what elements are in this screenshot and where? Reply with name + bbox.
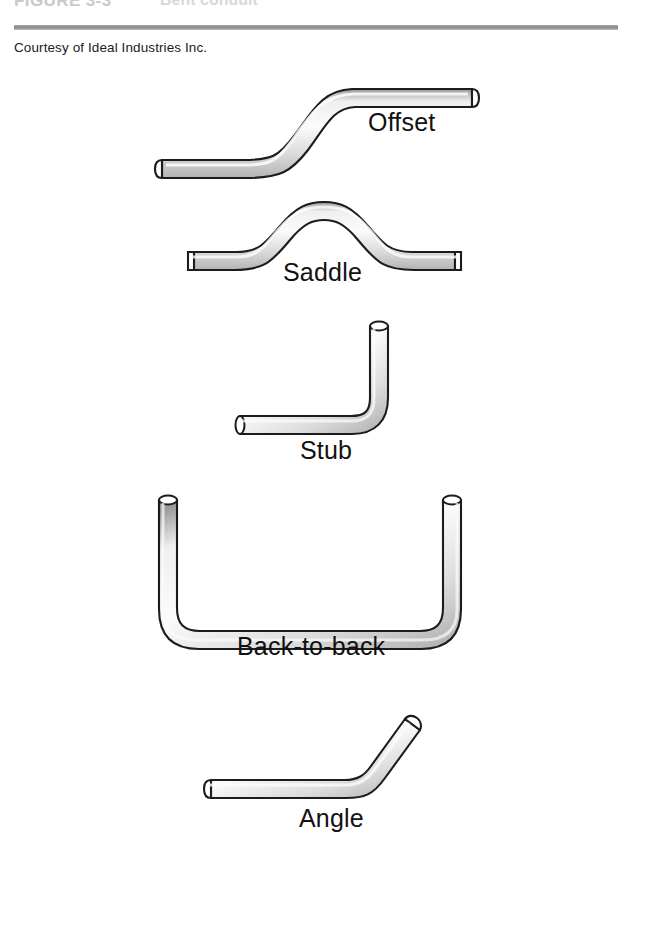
bend-label-back-to-back: Back-to-back [237, 632, 385, 661]
bend-label-offset: Offset [368, 108, 435, 137]
bend-figure-stub: Stub [0, 314, 646, 472]
figure-header: FIGURE 3-3 Bent conduit [0, 0, 646, 10]
figure-subject: Bent conduit [160, 0, 258, 9]
bend-figure-back-to-back: Back-to-back [0, 480, 646, 676]
bend-illustration-stack: Offset Saddle Stub [0, 62, 646, 938]
credit-line: Courtesy of Ideal Industries Inc. [14, 40, 207, 55]
offset-conduit-drawing [0, 62, 646, 190]
header-divider-rule [14, 25, 618, 30]
bend-figure-angle: Angle [0, 692, 646, 842]
bend-label-angle: Angle [299, 804, 364, 833]
figure-number: FIGURE 3-3 [14, 0, 112, 10]
bend-label-saddle: Saddle [283, 258, 362, 287]
bend-figure-saddle: Saddle [0, 198, 646, 306]
bend-figure-offset: Offset [0, 62, 646, 190]
saddle-conduit-drawing [0, 198, 646, 306]
bend-label-stub: Stub [300, 436, 352, 465]
